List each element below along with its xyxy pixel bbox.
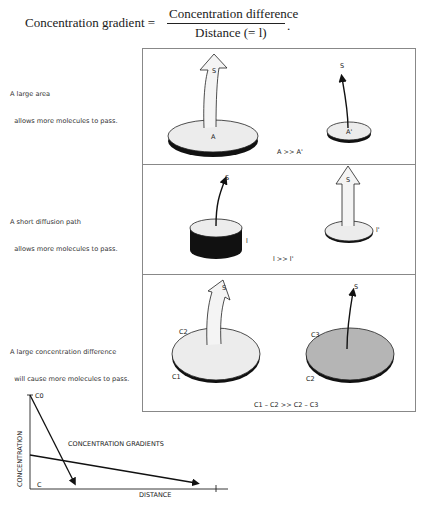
concentration-label: C2 <box>179 328 188 336</box>
thickness-label: l' <box>376 226 380 234</box>
c-label: C <box>37 481 42 489</box>
flux-label: S <box>340 62 344 70</box>
concentration-label: C1 <box>172 373 181 381</box>
flux-label: S <box>346 176 350 184</box>
area-label: A' <box>346 128 352 136</box>
wide-flux-arrow-icon <box>336 166 360 226</box>
relation-label: C1 – C2 >> C2 – C3 <box>254 401 319 409</box>
narrow-flux-arrow-icon <box>342 78 348 128</box>
thickness-label: l <box>246 237 248 245</box>
wide-flux-arrow-icon <box>200 54 227 128</box>
flux-label: S <box>354 283 358 291</box>
relation-label: l >> l' <box>273 255 293 263</box>
flux-label: S <box>222 284 226 292</box>
y-axis-label: CONCENTRATION <box>16 431 24 487</box>
flux-label: S <box>225 174 229 182</box>
concentration-label: C2 <box>306 375 315 383</box>
graph-title: CONCENTRATION GRADIENTS <box>68 440 164 448</box>
flux-label: S <box>212 67 216 75</box>
steep-gradient-line <box>30 395 74 482</box>
shallow-gradient-line <box>30 455 196 483</box>
area-label: A <box>211 133 215 141</box>
x-axis-label: DISTANCE <box>139 491 171 499</box>
diagram-drawings <box>0 0 427 508</box>
c0-label: C0 <box>35 392 44 400</box>
relation-label: A >> A' <box>277 148 303 156</box>
concentration-label: C3 <box>311 331 320 339</box>
